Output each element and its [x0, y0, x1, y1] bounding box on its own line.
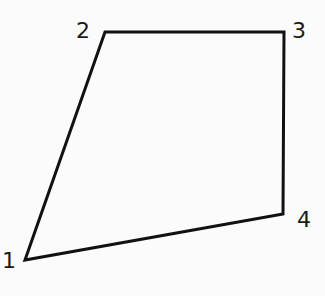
quadrilateral-shape	[25, 32, 284, 260]
quadrilateral-diagram: 1 2 3 4	[0, 0, 325, 296]
vertex-label-4: 4	[297, 207, 311, 232]
vertex-label-3: 3	[292, 18, 306, 43]
vertex-label-1: 1	[2, 248, 16, 273]
vertex-label-2: 2	[76, 18, 90, 43]
